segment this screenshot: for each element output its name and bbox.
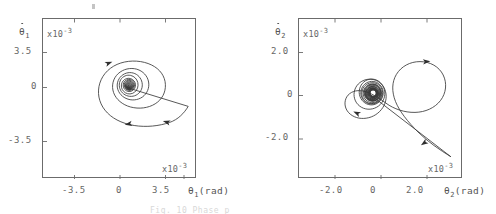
scan-artifact-speck xyxy=(92,4,95,9)
x-exp-power: -3 xyxy=(178,162,187,170)
y-tick-0-theta2: 2.0 xyxy=(271,47,289,56)
x-axis-label-theta1: θ1(rad) xyxy=(188,186,229,199)
y-tick-0-theta1: 3.5 xyxy=(14,47,32,56)
x-tick-0-theta2: -2.0 xyxy=(319,186,343,195)
theta-dot-symbol: θ xyxy=(19,27,25,37)
x-tick-0-theta1: -3.5 xyxy=(62,186,86,195)
x-axis-unit: (rad) xyxy=(455,185,486,196)
panel-theta2: θ2 x10-3 2.0 0 -2.0 x10-3 -2.0 0 2.0 θ2(… xyxy=(248,0,496,214)
arrowhead-1 xyxy=(105,59,114,67)
y-tick-1-theta1: 0 xyxy=(31,82,37,91)
x-exp-power: -3 xyxy=(444,162,453,170)
theta-dot-symbol: θ xyxy=(275,27,281,37)
derivative-dot-icon xyxy=(277,23,279,25)
arrowhead-2 xyxy=(124,121,132,127)
x-tick-1-theta2: 0 xyxy=(370,186,376,195)
derivative-dot-icon xyxy=(21,23,23,25)
x-axis-exponent-theta2: x10-3 xyxy=(428,163,453,173)
y-tick-1-theta2: 0 xyxy=(287,90,293,99)
plot-frame-theta1 xyxy=(42,18,196,178)
x-tick-2-theta1: 3.5 xyxy=(152,186,170,195)
y-exp-power: -3 xyxy=(319,27,328,35)
trajectory-plot-theta1 xyxy=(43,19,197,179)
trajectory-plot-theta2 xyxy=(299,19,463,179)
y-axis-exponent-theta2: x10-3 xyxy=(303,28,328,38)
y-axis-exponent-theta1: x10-3 xyxy=(47,28,72,38)
arrowhead-group-theta2 xyxy=(352,59,430,148)
y-axis-theta-glyph: θ xyxy=(275,26,281,37)
x-tick-1-theta1: 0 xyxy=(116,186,122,195)
y-exp-mantissa: x10 xyxy=(303,29,319,39)
plot-frame-theta2 xyxy=(298,18,462,178)
panel-theta1: θ1 x10-3 3.5 0 -3.5 x10-3 -3.5 0 3.5 θ1(… xyxy=(0,0,248,214)
arrowhead-2 xyxy=(352,109,361,117)
figure-caption: Fig. 10 Phase p xyxy=(150,206,230,214)
y-axis-subscript: 1 xyxy=(25,32,30,40)
y-tick-2-theta2: -2.0 xyxy=(265,133,289,142)
y-axis-label-theta1: θ1 xyxy=(19,27,30,40)
figure-phase-portraits: θ1 x10-3 3.5 0 -3.5 x10-3 -3.5 0 3.5 θ1(… xyxy=(0,0,496,214)
y-axis-subscript: 2 xyxy=(281,32,286,40)
x-tick-2-theta2: 2.0 xyxy=(406,186,424,195)
x-axis-label-theta2: θ2(rad) xyxy=(444,186,485,199)
x-exp-mantissa: x10 xyxy=(428,164,444,174)
y-exp-power: -3 xyxy=(63,27,72,35)
x-axis-unit: (rad) xyxy=(199,185,230,196)
x-exp-mantissa: x10 xyxy=(162,164,178,174)
spiral-path-theta2 xyxy=(345,62,451,157)
spiral-path-theta1 xyxy=(98,61,188,126)
y-axis-label-theta2: θ2 xyxy=(275,27,286,40)
y-exp-mantissa: x10 xyxy=(47,29,63,39)
y-axis-theta-glyph: θ xyxy=(19,26,25,37)
y-tick-2-theta1: -3.5 xyxy=(8,136,32,145)
x-axis-exponent-theta1: x10-3 xyxy=(162,163,187,173)
